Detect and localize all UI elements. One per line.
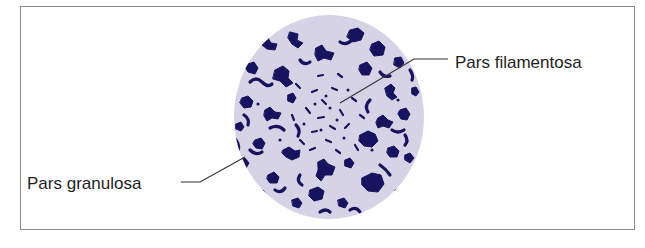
label-pars-filamentosa: Pars filamentosa: [455, 54, 582, 71]
label-pars-granulosa: Pars granulosa: [27, 175, 141, 192]
leader-line-granulosa: [181, 157, 245, 182]
nucleolus-diagram: [0, 0, 645, 248]
